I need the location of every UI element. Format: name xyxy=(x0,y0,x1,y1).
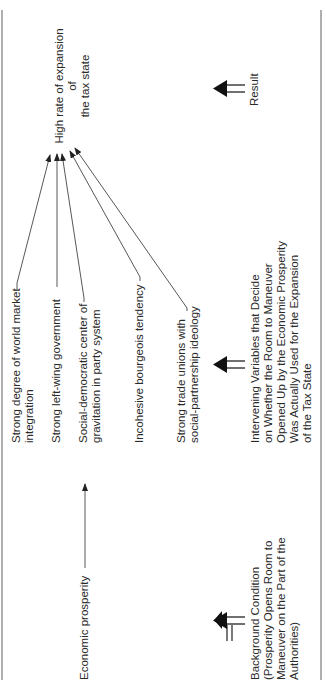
variable-social-democratic: Social-democratic center of gravitation … xyxy=(77,304,103,443)
legend-result-label: Result xyxy=(248,73,261,106)
variable-world-market: Strong degree of world market integratio… xyxy=(10,288,36,443)
result-node: High rate of expansion of the tax state xyxy=(53,26,92,146)
variable-incohesive-bourgeois: Incohesive bourgeois tendency xyxy=(133,284,146,443)
diagram-canvas: High rate of expansion of the tax state … xyxy=(0,0,326,687)
result-label-line2: of xyxy=(66,26,79,146)
result-label-line3: the tax state xyxy=(79,26,92,146)
variable-left-wing: Strong left-wing government xyxy=(50,299,63,443)
double-arrow-result-icon xyxy=(213,80,245,97)
legend-background-label: Background Condition (Prosperity Opens R… xyxy=(249,537,301,680)
legend-intervening-label: Intervening Variables that Decide on Whe… xyxy=(249,241,314,443)
variable-trade-unions: Strong trade unions with social-partners… xyxy=(175,306,201,443)
variable-economic-prosperity: Economic prosperity xyxy=(78,576,91,680)
result-label-line1: High rate of expansion xyxy=(53,26,66,146)
double-arrow-background-icon-2 xyxy=(213,612,245,629)
double-arrow-intervening-icon xyxy=(213,356,245,373)
